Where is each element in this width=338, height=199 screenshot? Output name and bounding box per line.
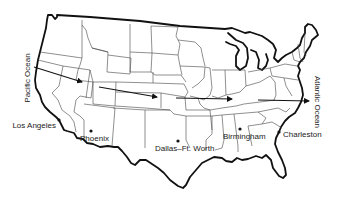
ocean-label-atlantic: Atlantic Ocean	[313, 76, 322, 128]
great-lakes-outline	[226, 33, 248, 70]
arrow-1	[34, 67, 82, 82]
city-label: Charleston	[283, 130, 322, 139]
city-phoenix: Phoenix	[80, 129, 109, 143]
city-dot	[176, 139, 179, 142]
city-label: Birmingham	[223, 132, 266, 141]
arrow-2	[99, 87, 157, 97]
city-charleston: Charleston	[277, 130, 321, 139]
city-dot	[277, 130, 280, 133]
city-dot	[89, 129, 92, 132]
migration-arrows	[34, 67, 309, 101]
ocean-label-pacific: Pacific Ocean	[23, 53, 32, 102]
city-label: Phoenix	[80, 134, 109, 143]
state-borders	[38, 20, 306, 152]
city-dot	[238, 127, 241, 130]
michigan-outline	[251, 50, 268, 70]
us-outline	[35, 15, 318, 188]
city-label: Los Angeles	[12, 121, 56, 130]
city-dot	[57, 118, 60, 121]
city-label: Dallas–Ft. Worth	[155, 144, 214, 153]
city-los-angeles: Los Angeles	[12, 118, 60, 130]
city-birmingham: Birmingham	[223, 127, 266, 141]
arrow-3	[176, 98, 232, 99]
city-dallas-ft-worth: Dallas–Ft. Worth	[155, 139, 214, 153]
us-map: Pacific Ocean Atlantic Ocean Los Angeles…	[0, 0, 338, 199]
